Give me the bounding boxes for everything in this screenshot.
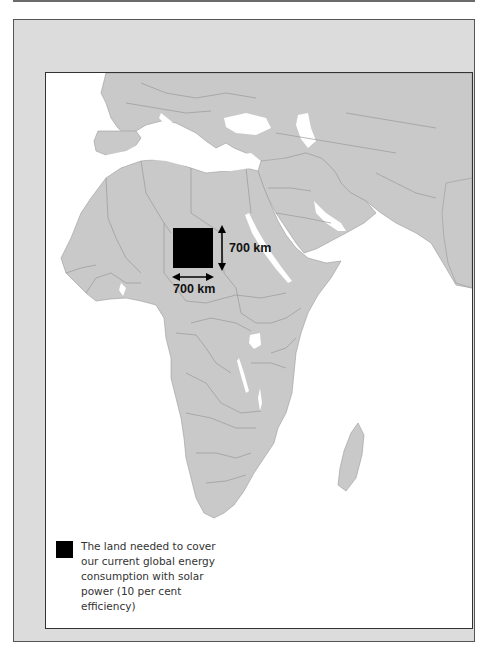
legend-swatch	[56, 541, 73, 558]
india	[442, 178, 472, 288]
figure-frame: 700 km 700 km The land needed to cover o…	[13, 19, 475, 642]
height-label: 700 km	[229, 241, 271, 255]
map-panel: 700 km 700 km The land needed to cover o…	[45, 72, 473, 629]
solar-area-square	[173, 228, 213, 268]
width-label: 700 km	[173, 282, 215, 296]
top-rule	[13, 0, 475, 2]
madagascar	[338, 423, 364, 491]
legend-label: The land needed to cover our current glo…	[81, 539, 231, 614]
vertical-double-arrow-icon	[216, 225, 228, 271]
